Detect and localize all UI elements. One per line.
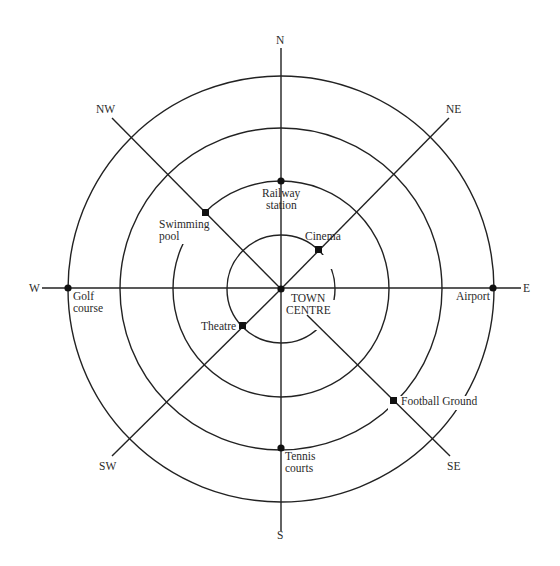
town-centre-label-line2: CENTRE [286,304,331,316]
axis-southwest [112,289,281,456]
label-south: S [277,529,283,541]
football-ground-marker [390,397,397,404]
town-centre-label: TOWN [291,292,326,304]
label-southwest: SW [99,460,116,472]
label-east: E [523,282,530,294]
tennis-courts-label: Tennis [285,450,316,462]
cinema-marker [315,246,322,253]
label-north: N [276,34,285,46]
golf-course-label: Golf [73,290,94,302]
town-centre-marker [277,285,284,292]
cinema-label: Cinema [305,230,341,242]
label-northwest: NW [96,103,115,115]
football-ground-label: Football Ground [401,395,478,407]
label-northeast: NE [446,103,461,115]
theatre-marker [239,322,246,329]
airport-label: Airport [456,290,491,303]
railway-station-label-line2: station [266,199,297,211]
axis-northwest [112,118,281,289]
place-labels: Railway station Cinema Swimming pool Gol… [73,187,491,474]
label-southeast: SE [447,460,460,472]
golf-course-marker [64,284,71,291]
compass-map-diagram: N NW NE W E SW SE S Railway station Cine… [0,0,560,566]
axis-northeast [281,118,449,289]
tennis-courts-label-line2: courts [285,462,314,474]
label-west: W [29,282,40,294]
golf-course-label-line2: course [73,302,103,314]
tennis-courts-marker [277,444,284,451]
theatre-label: Theatre [201,320,236,332]
swimming-pool-marker [202,209,209,216]
airport-marker [489,284,496,291]
railway-station-marker [277,177,284,184]
swimming-pool-label-line2: pool [159,230,179,243]
